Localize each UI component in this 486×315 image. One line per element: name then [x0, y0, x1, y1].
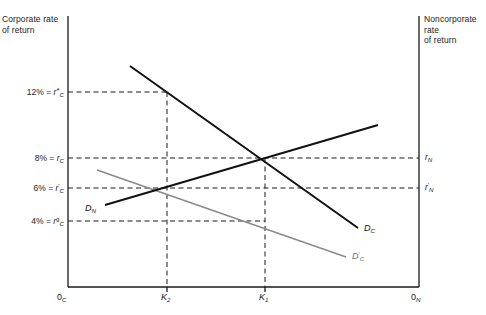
- y-tick-label-r-c-prime: 6% = r′C: [0, 183, 64, 193]
- left-axis-title: Corporate rate of return: [2, 14, 58, 35]
- chart-svg: [0, 0, 486, 315]
- tick-sub: C: [60, 220, 64, 227]
- curve-var: D: [364, 223, 371, 233]
- figure-canvas: Corporate rate of return Noncorporate ra…: [0, 0, 486, 315]
- tick-sub: C: [60, 91, 64, 98]
- y-tick-label-r-n-prime: r′N: [425, 182, 433, 192]
- right-axis-title: Noncorporate rate of return: [424, 14, 486, 46]
- tick-sub: 1: [265, 296, 268, 303]
- tick-sup: g: [56, 215, 59, 222]
- tick-sub: N: [429, 186, 433, 193]
- tick-sub: C: [60, 157, 64, 164]
- tick-prefix: 12% =: [27, 87, 54, 97]
- tick-prefix: 4% =: [31, 216, 53, 226]
- tick-sub: C: [60, 187, 64, 194]
- curve-label-d-c: DC: [364, 223, 375, 233]
- tick-sub: 2: [167, 296, 170, 303]
- x-tick-label-origin-n: 0N: [411, 292, 420, 302]
- curve-sub: N: [92, 207, 96, 214]
- curve-d-n: [105, 125, 378, 205]
- x-tick-label-k1: K1: [259, 292, 268, 302]
- tick-sub: N: [416, 296, 420, 303]
- curve-d-c-prime: [97, 170, 346, 257]
- tick-sub: C: [62, 296, 66, 303]
- x-tick-marks: [167, 287, 265, 292]
- axes-frame: [68, 16, 419, 287]
- x-tick-label-origin-c: 0C: [57, 292, 66, 302]
- curve-sub: C: [371, 227, 375, 234]
- curve-label-d-n: DN: [85, 203, 96, 213]
- tick-sub: N: [428, 156, 432, 163]
- y-tick-label-r-n: rN: [425, 152, 432, 162]
- curve-var: D: [352, 251, 359, 261]
- dashed-guides: [68, 92, 419, 287]
- curve-sub: C: [360, 255, 364, 262]
- y-tick-label-r-c-g: 4% = rgC: [0, 216, 64, 226]
- y-tick-label-r-star: 12% = r*C: [0, 87, 64, 97]
- curve-label-d-c-prime: D′C: [352, 251, 364, 261]
- x-tick-label-k2: K2: [161, 292, 170, 302]
- tick-prefix: 8% =: [35, 153, 57, 163]
- curve-d-c: [130, 66, 358, 228]
- curve-var: D: [85, 203, 92, 213]
- y-tick-label-r-c: 8% = rC: [0, 153, 64, 163]
- tick-prefix: 6% =: [34, 183, 56, 193]
